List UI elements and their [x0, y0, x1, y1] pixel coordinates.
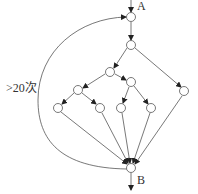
edge-n3-n4 — [115, 74, 126, 80]
edge-n3-n6 — [83, 74, 105, 88]
entry-label: A — [137, 0, 146, 13]
node-n7 — [54, 104, 63, 113]
node-n2 — [127, 41, 136, 50]
exit-label: B — [137, 173, 145, 187]
edge-n6-n8 — [82, 93, 96, 104]
edges — [38, 0, 182, 190]
node-n1 — [127, 13, 136, 22]
edge-n4-n10 — [134, 86, 148, 104]
edge-n2-n5 — [135, 48, 181, 87]
node-n6 — [74, 86, 83, 95]
edge-n8-B — [102, 113, 128, 163]
node-n5 — [180, 87, 189, 96]
flow-diagram: A B >20次 — [0, 0, 198, 194]
node-n4 — [127, 78, 136, 87]
node-n10 — [147, 104, 156, 113]
edge-n5-B — [135, 96, 182, 164]
edge-n7-B — [61, 112, 127, 164]
node-n3 — [106, 68, 115, 77]
edge-n4-n9 — [123, 87, 129, 103]
edge-n9-B — [122, 113, 130, 163]
edge-n6-n7 — [62, 93, 74, 104]
node-b — [127, 164, 136, 173]
edge-n10-B — [133, 113, 150, 163]
loop-label: >20次 — [6, 81, 37, 95]
node-n9 — [117, 104, 126, 113]
nodes — [54, 13, 189, 173]
node-n8 — [96, 104, 105, 113]
edge-n2-n3 — [114, 48, 127, 68]
